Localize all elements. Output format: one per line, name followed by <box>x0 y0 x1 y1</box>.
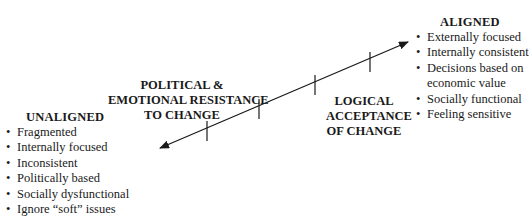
change-continuum-arrow <box>0 0 529 218</box>
axis-line <box>160 42 408 148</box>
